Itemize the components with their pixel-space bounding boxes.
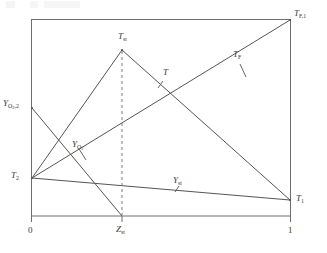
label-t-f1-sub: F,1 bbox=[299, 13, 306, 19]
series-line-t-rising bbox=[32, 50, 122, 178]
endpoint-yo22 bbox=[31, 107, 33, 109]
leader-tf bbox=[240, 64, 246, 77]
label-t: T bbox=[163, 68, 168, 77]
plot-canvas bbox=[0, 0, 327, 253]
series-line-yo2 bbox=[32, 108, 122, 216]
series-line-yst bbox=[32, 178, 290, 200]
label-t-f1: TF,1 bbox=[294, 9, 306, 19]
plot-frame bbox=[32, 20, 291, 217]
label-t-2: T2 bbox=[11, 171, 19, 181]
label-t-f: TF bbox=[233, 50, 241, 60]
label-y-o2-2: YO2,2 bbox=[3, 99, 19, 110]
label-t-1-sub: 1 bbox=[301, 198, 304, 204]
x-tick-label-one: 1 bbox=[288, 226, 293, 235]
endpoint-t2 bbox=[31, 177, 33, 179]
x-tick-label-zero: 0 bbox=[28, 226, 33, 235]
label-y-st-sub: st bbox=[178, 180, 182, 186]
label-t-st: Tst bbox=[118, 32, 127, 42]
label-t-1: T1 bbox=[296, 194, 304, 204]
label-t-2-sub: 2 bbox=[16, 175, 19, 181]
label-y-o2-2-sub: O2,2 bbox=[8, 103, 19, 109]
label-y-o2-sub: O2 bbox=[77, 144, 84, 150]
label-t-st-sub: st bbox=[123, 36, 127, 42]
label-t-f-sub: F bbox=[238, 54, 241, 60]
label-y-o2: YO2 bbox=[72, 140, 84, 151]
leader-yst bbox=[175, 186, 179, 192]
endpoint-t1 bbox=[289, 199, 291, 201]
endpoint-tf1 bbox=[289, 19, 291, 21]
series-line-t-falling bbox=[122, 50, 290, 200]
label-t-main: T bbox=[163, 67, 168, 77]
figure-root: Tst TF,1 TF T T1 T2 YO2,2 YO2 Yst 0 Zst … bbox=[0, 0, 327, 253]
endpoint-tst bbox=[121, 49, 123, 51]
leader-t bbox=[158, 81, 163, 88]
x-tick-label-zst-sub: st bbox=[121, 229, 125, 235]
label-y-st: Yst bbox=[173, 176, 182, 186]
x-tick-label-zst: Zst bbox=[116, 225, 125, 235]
